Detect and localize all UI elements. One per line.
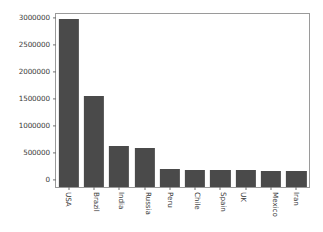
- x-axis-tick-label: USA: [65, 192, 72, 207]
- y-axis-tick: 1000000: [19, 122, 56, 129]
- y-axis-tick: 2500000: [19, 41, 56, 48]
- y-axis-tick-label: 0: [46, 176, 53, 183]
- x-axis-tick-mark: [245, 187, 246, 190]
- bar: [185, 170, 205, 187]
- bar: [109, 146, 129, 187]
- x-axis-tick-label: Russia: [145, 192, 152, 215]
- y-axis-tick-label: 2500000: [19, 41, 53, 48]
- y-axis-tick-mark: [53, 17, 56, 18]
- y-axis-tick-label: 1500000: [19, 95, 53, 102]
- bar: [286, 171, 306, 187]
- plot-area: 0500000100000015000002000000250000030000…: [55, 13, 310, 188]
- x-axis-tick-label: India: [117, 192, 124, 209]
- bar: [210, 170, 230, 187]
- y-axis-tick: 3000000: [19, 14, 56, 21]
- x-axis-tick-mark: [296, 187, 297, 190]
- x-axis-tick-label: UK: [240, 192, 247, 202]
- y-axis-tick-mark: [53, 125, 56, 126]
- bar: [59, 19, 79, 187]
- y-axis-tick-label: 1000000: [19, 122, 53, 129]
- x-axis-tick-label: Mexico: [273, 192, 280, 217]
- y-axis-tick-mark: [53, 44, 56, 45]
- x-axis-tick-label: Chile: [193, 192, 200, 210]
- x-axis-tick-mark: [169, 187, 170, 190]
- x-axis-tick-mark: [119, 187, 120, 190]
- bar: [84, 96, 104, 187]
- x-axis-tick-mark: [271, 187, 272, 190]
- x-axis-tick-mark: [195, 187, 196, 190]
- bar: [261, 171, 281, 187]
- y-axis-tick-label: 500000: [23, 149, 53, 156]
- x-axis-tick-mark: [220, 187, 221, 190]
- bar: [160, 169, 180, 187]
- x-axis-tick-label: Peru: [167, 192, 174, 208]
- bar: [134, 148, 154, 187]
- y-axis-tick: 2000000: [19, 68, 56, 75]
- y-axis-tick-mark: [53, 71, 56, 72]
- y-axis-tick-mark: [53, 179, 56, 180]
- y-axis-tick: 0: [46, 176, 56, 183]
- x-axis-tick-mark: [144, 187, 145, 190]
- x-axis-tick-label: Brazil: [93, 192, 100, 212]
- y-axis-tick-mark: [53, 98, 56, 99]
- x-axis-tick-mark: [93, 187, 94, 190]
- bar: [236, 170, 256, 187]
- y-axis-tick-label: 2000000: [19, 68, 53, 75]
- y-axis-tick: 500000: [23, 149, 56, 156]
- y-axis-tick-mark: [53, 152, 56, 153]
- y-axis-tick: 1500000: [19, 95, 56, 102]
- x-axis-tick-label: Spain: [220, 192, 227, 212]
- y-axis-tick-label: 3000000: [19, 14, 53, 21]
- chart-figure: 0500000100000015000002000000250000030000…: [0, 0, 323, 232]
- x-axis-tick-mark: [68, 187, 69, 190]
- x-axis-tick-label: Iran: [292, 192, 299, 206]
